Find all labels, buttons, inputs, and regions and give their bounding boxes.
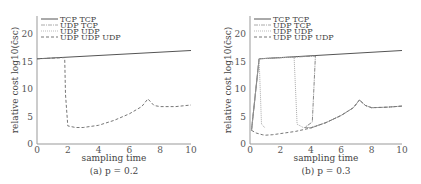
svg-text:0: 0 [247,145,253,155]
series-udp-udp-udp [37,58,191,128]
svg-text:15: 15 [22,57,34,67]
svg-text:10: 10 [396,145,408,155]
legend: TCP TCP UDP TCP UDP UDP UDP UDP UDP [254,15,334,42]
svg-text:UDP UDP UDP: UDP UDP UDP [273,33,334,42]
svg-text:0: 0 [34,145,40,155]
series-tcp-tcp [252,51,403,131]
svg-text:10: 10 [235,84,247,94]
svg-text:20: 20 [235,29,247,39]
x-axis-label: sampling time [82,153,147,163]
svg-text:8: 8 [157,145,163,155]
svg-text:0: 0 [27,139,33,149]
svg-text:0: 0 [240,139,246,149]
y-axis-label: relative cost log10(c̄sc) [223,27,233,133]
caption-b: (b) p = 0.3 [302,166,351,176]
svg-text:10: 10 [22,84,34,94]
y-ticks: 0 5 10 15 20 [235,29,247,149]
x-axis-label: sampling time [294,153,359,163]
chart-a-svg: 0 5 10 15 20 0 2 4 6 8 10 sampling time … [0,0,210,184]
legend: TCP TCP UDP TCP UDP UDP UDP UDP UDP [41,15,121,42]
series-udp-udp-udp [252,100,403,135]
svg-text:2: 2 [65,145,71,155]
svg-text:UDP UDP UDP: UDP UDP UDP [60,33,121,42]
chart-b-svg: 0 5 10 15 20 0 2 4 6 8 10 sampling time … [211,0,421,184]
svg-text:5: 5 [240,112,246,122]
svg-text:8: 8 [369,145,375,155]
y-axis-label: relative cost log10(c̄sc) [10,27,20,133]
svg-text:5: 5 [27,112,33,122]
series-tcp-tcp [37,51,191,59]
series-udp-udp-early-drop [259,59,265,128]
series-udp-udp [252,57,403,130]
chart-panel-b: 0 5 10 15 20 0 2 4 6 8 10 sampling time … [211,0,421,184]
series-udp-tcp [252,56,403,130]
svg-text:10: 10 [185,145,197,155]
svg-text:2: 2 [278,145,284,155]
y-ticks: 0 5 10 15 20 [22,29,34,149]
caption-a: (a) p = 0.2 [90,166,139,176]
svg-text:20: 20 [22,29,34,39]
svg-text:15: 15 [235,57,247,67]
chart-panel-a: 0 5 10 15 20 0 2 4 6 8 10 sampling time … [0,0,210,184]
